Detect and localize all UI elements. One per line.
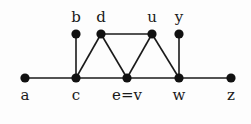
node-u [147,29,156,38]
node-y [174,29,183,38]
edge-d-ev [101,34,127,78]
node-label-u: u [147,8,157,26]
edge-u-ev [127,34,152,78]
node-label-d: d [96,8,106,26]
node-b [71,29,80,38]
node-label-y: y [174,8,184,26]
nodes-group [20,29,235,82]
node-z [226,73,235,82]
edge-c-d [76,34,101,78]
node-c [71,73,80,82]
graph-svg: ace=vwzbduy [0,0,251,124]
edge-u-w [152,34,179,78]
node-ev [122,73,131,82]
node-label-a: a [21,86,30,104]
node-label-w: w [173,86,186,104]
node-label-z: z [227,86,235,104]
node-label-b: b [71,8,81,26]
node-d [96,29,105,38]
node-label-ev: e=v [112,86,142,104]
edges-group [25,34,231,78]
node-a [20,73,29,82]
graph-diagram: ace=vwzbduy [0,0,251,124]
node-label-c: c [72,86,80,104]
labels-group: ace=vwzbduy [21,8,236,104]
node-w [174,73,183,82]
